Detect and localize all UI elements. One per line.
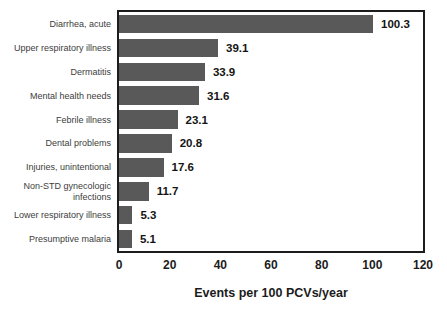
- bar: [119, 15, 373, 34]
- value-label: 17.6: [172, 161, 194, 173]
- value-label: 5.3: [140, 209, 156, 221]
- category-label: Injuries, unintentional: [6, 162, 111, 172]
- value-label: 33.9: [213, 66, 235, 78]
- value-label: 23.1: [186, 114, 208, 126]
- bar-chart-figure: Diarrhea, acuteUpper respiratory illness…: [0, 0, 447, 315]
- bar: [119, 134, 172, 153]
- value-label: 5.1: [140, 233, 156, 245]
- x-tick-label: 20: [163, 258, 176, 272]
- value-label: 31.6: [207, 90, 229, 102]
- category-label: Presumptive malaria: [6, 234, 111, 244]
- value-label: 100.3: [381, 18, 410, 30]
- x-tick-label: 100: [362, 258, 382, 272]
- bar: [119, 110, 178, 129]
- bar: [119, 86, 199, 105]
- bar: [119, 158, 164, 177]
- x-tick-label: 60: [264, 258, 277, 272]
- category-label: Dental problems: [6, 138, 111, 148]
- bar: [119, 230, 132, 249]
- category-label: Diarrhea, acute: [6, 19, 111, 29]
- bar: [119, 206, 132, 225]
- value-label: 11.7: [157, 185, 179, 197]
- bar: [119, 39, 218, 58]
- category-label: Dermatitis: [6, 67, 111, 77]
- bar: [119, 63, 205, 82]
- category-label: Febrile illness: [6, 114, 111, 124]
- x-tick-label: 80: [315, 258, 328, 272]
- category-label: Non-STD gynecologic infections: [6, 181, 111, 202]
- value-label: 20.8: [180, 137, 202, 149]
- x-axis-title: Events per 100 PCVs/year: [194, 286, 348, 300]
- x-tick-label: 120: [413, 258, 433, 272]
- bar: [119, 182, 149, 201]
- category-label: Lower respiratory illness: [6, 210, 111, 220]
- x-tick-label: 0: [116, 258, 123, 272]
- x-tick-label: 40: [214, 258, 227, 272]
- category-label: Mental health needs: [6, 90, 111, 100]
- value-label: 39.1: [226, 42, 248, 54]
- category-label: Upper respiratory illness: [6, 43, 111, 53]
